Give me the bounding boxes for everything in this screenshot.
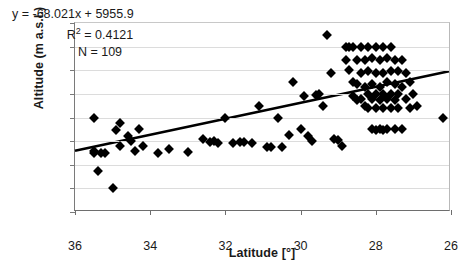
x-axis-tick	[75, 210, 76, 215]
r-squared-value: R2 = 0.4121	[12, 23, 222, 44]
x-axis-tick	[225, 210, 226, 215]
gridline	[75, 118, 449, 119]
scatter-chart-figure: Altitude (m a.s.l.) 30003200340036003800…	[0, 0, 472, 270]
regression-equation: y = -68.021x + 5955.9	[12, 6, 222, 23]
gridline	[75, 188, 449, 189]
x-axis-tick	[451, 210, 452, 215]
x-axis-tick	[376, 210, 377, 215]
r-squared-symbol: R	[67, 28, 76, 42]
y-axis-tick	[70, 70, 75, 71]
sample-size-label: N = 109	[12, 44, 222, 61]
x-axis-title: Latitude [°]	[74, 246, 450, 260]
r-squared-number: = 0.4121	[81, 28, 133, 42]
regression-annotation: y = -68.021x + 5955.9 R2 = 0.4121 N = 10…	[12, 6, 222, 61]
y-axis-tick	[70, 188, 75, 189]
y-axis-tick	[70, 118, 75, 119]
y-axis-tick	[70, 165, 75, 166]
x-axis-tick	[301, 210, 302, 215]
gridline	[75, 165, 449, 166]
x-axis-tick	[150, 210, 151, 215]
y-axis-tick	[70, 141, 75, 142]
y-axis-tick	[70, 94, 75, 95]
